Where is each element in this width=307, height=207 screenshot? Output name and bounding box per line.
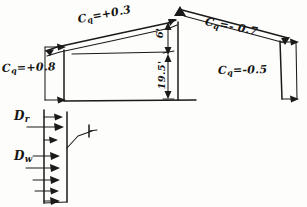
label-wall-dead-load: Dw [14,150,32,164]
leeward-wall-value: -0.5 [242,63,267,76]
load-diagram-leader [67,125,97,148]
label-windward-wall-coefficient: Cq=+0.8 [2,61,56,76]
eave-reference-line [72,52,168,54]
label-roof-dead-load: Dr [14,110,30,124]
label-roof-rise-dimension: 6' [155,28,165,39]
windward-wall-value: +0.8 [26,60,56,74]
label-eave-height-dimension: 19.5' [157,61,167,90]
roof-load-subscript: r [25,114,30,124]
windward-wall-symbol: C [2,62,12,75]
leeward-wall-symbol: C [218,64,227,77]
leeward-roof-arrowhead [281,37,290,45]
ground-line [64,100,196,101]
wall-load-subscript: w [25,154,33,164]
label-leeward-wall-coefficient: Cq=-0.5 [218,64,268,78]
windward-roof-arrowhead [45,50,54,57]
wall-load-symbol: D [14,149,25,163]
roof-load-symbol: D [14,109,25,123]
sketch-sheet: Cq=+0.8 Cq=+0.3 Cq=- 0.7 Cq=-0.5 6' 19.5… [0,0,307,207]
leeward-wall-suction-block [280,39,299,103]
roof-load-arrows [27,114,64,144]
